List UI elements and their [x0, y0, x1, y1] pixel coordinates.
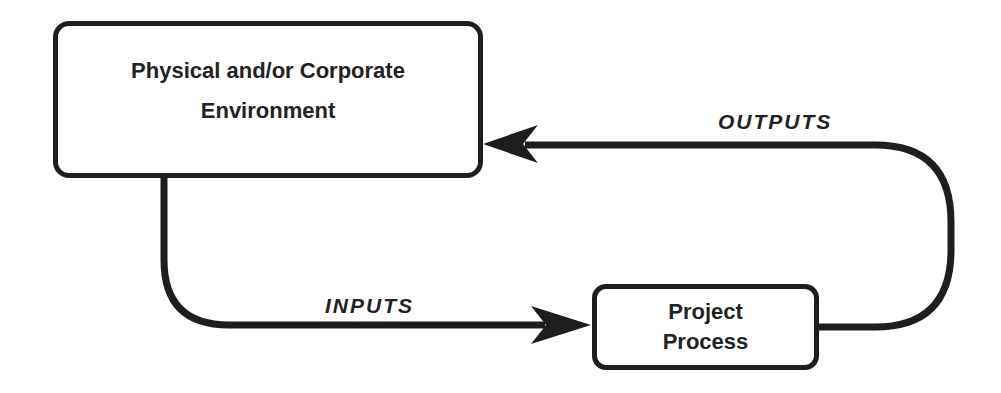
project-process-node: Project Process — [592, 284, 819, 370]
feedback-loop-diagram: Physical and/or Corporate Environment Pr… — [0, 0, 1001, 393]
environment-node-line-1: Physical and/or Corporate — [131, 51, 405, 91]
project-process-node-line-2: Process — [663, 327, 749, 357]
environment-node-line-2: Environment — [201, 91, 335, 131]
project-process-node-line-1: Project — [668, 297, 743, 327]
environment-node: Physical and/or Corporate Environment — [53, 21, 483, 178]
inputs-label: INPUTS — [325, 294, 414, 318]
outputs-label: OUTPUTS — [718, 110, 832, 134]
